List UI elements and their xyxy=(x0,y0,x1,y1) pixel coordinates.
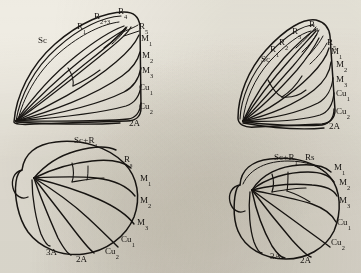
label-rs: Rs xyxy=(305,153,315,162)
label-2a: 2A xyxy=(76,255,87,264)
label-m-2: M2 xyxy=(339,178,350,187)
label-r-3: R3 xyxy=(292,27,301,36)
label-m-2: M2 xyxy=(140,196,151,205)
label-cu-1: Cu1 xyxy=(139,83,153,92)
label-m-3: M3 xyxy=(142,66,153,75)
label-cu-2: Cu2 xyxy=(105,247,119,256)
label-cu-1: Cu1 xyxy=(336,89,350,98)
label-r-1: R1 xyxy=(77,22,86,31)
label-3a: 3A xyxy=(270,252,281,261)
label-sc-r-1: Sc+R1 xyxy=(74,136,98,145)
panel-top-right-forewing xyxy=(238,20,335,129)
label-m-1: M1 xyxy=(331,47,342,56)
label-r-1: R1 xyxy=(270,45,279,54)
label-r-4: R4 xyxy=(118,7,127,16)
label-m-2: M2 xyxy=(142,51,153,60)
panel-bottom-right-hindwing xyxy=(229,158,339,259)
venation-drawing xyxy=(0,0,361,273)
label-cu-2: Cu2 xyxy=(139,102,153,111)
label-m-3: M3 xyxy=(336,75,347,84)
label-r-4: R4 xyxy=(309,20,318,29)
label-2a: 2A xyxy=(329,122,340,131)
label-cu-1: Cu1 xyxy=(337,218,351,227)
label-cu-1: Cu1 xyxy=(121,235,135,244)
label-2a: 2A xyxy=(129,119,140,128)
label-m-3: M3 xyxy=(137,218,148,227)
label-m-1: M1 xyxy=(334,163,345,172)
wing-venation-figure: ScR1R2+3R4R5M1M2M3Cu1Cu22A ScR1R2R3R4R5M… xyxy=(0,0,361,273)
panel-bottom-left-hindwing xyxy=(12,141,137,255)
label-cu-2: Cu2 xyxy=(331,238,345,247)
label-r-2: R2 xyxy=(279,38,288,47)
label-2a: 2A xyxy=(300,256,311,265)
label-r-2-3: R2+3 xyxy=(94,12,110,21)
label-m-1: M1 xyxy=(140,174,151,183)
label-sc-r-1: Sc+R1 xyxy=(274,153,298,162)
label-sc: Sc xyxy=(38,36,47,45)
label-3a: 3A xyxy=(46,248,57,257)
label-m-1: M1 xyxy=(141,34,152,43)
label-m-3: M3 xyxy=(339,196,350,205)
label-r-5: R5 xyxy=(139,22,148,31)
label-cu-2: Cu2 xyxy=(336,107,350,116)
label-m-2: M2 xyxy=(336,60,347,69)
label-r-s: Rs xyxy=(124,155,133,164)
label-sc: Sc xyxy=(261,55,270,64)
